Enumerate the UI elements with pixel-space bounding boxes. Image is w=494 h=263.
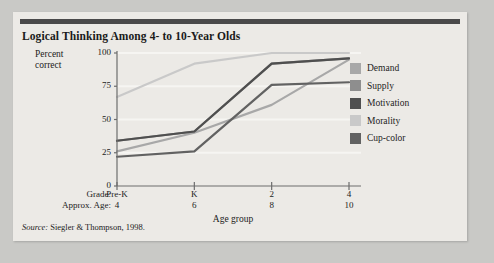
x-axis-grade-label: K: [171, 189, 217, 199]
chart-series-line: [117, 58, 349, 140]
y-axis-label-line2: correct: [35, 60, 61, 70]
legend-swatch-icon: [350, 63, 361, 74]
source-note: Source: Siegler & Thompson, 1998.: [22, 222, 145, 232]
y-axis-tick-label: 75: [85, 80, 111, 90]
source-label: Source:: [22, 222, 48, 232]
legend-item[interactable]: Motivation: [350, 95, 462, 111]
legend-item-label: Morality: [367, 116, 400, 126]
legend-item[interactable]: Supply: [350, 78, 462, 94]
figure-card: Logical Thinking Among 4- to 10-Year Old…: [13, 12, 467, 241]
x-axis-age-label: 8: [249, 200, 295, 210]
x-axis-grade-label: 4: [326, 189, 372, 199]
x-axis-age-label: 6: [171, 200, 217, 210]
legend-swatch-icon: [350, 98, 361, 109]
x-axis-age-label: 10: [326, 200, 372, 210]
y-axis-tick-label: 100: [85, 47, 111, 57]
y-axis-tick-label: 25: [85, 147, 111, 157]
legend-item[interactable]: Demand: [350, 60, 462, 76]
legend-item[interactable]: Cup-color: [350, 130, 462, 146]
legend-swatch-icon: [350, 80, 361, 91]
y-axis-label-line1: Percent: [35, 49, 64, 59]
age-row-caption: Approx. Age:: [25, 200, 111, 210]
chart-series-line: [117, 58, 349, 140]
legend-item-label: Demand: [367, 63, 399, 73]
grade-row-caption: Grade:: [35, 189, 111, 199]
legend-item[interactable]: Morality: [350, 113, 462, 129]
chart-series-line: [117, 53, 349, 97]
legend-item-label: Cup-color: [367, 133, 406, 143]
x-axis-grade-label: 2: [249, 189, 295, 199]
chart-legend: DemandSupplyMotivationMoralityCup-color: [350, 60, 462, 148]
legend-swatch-icon: [350, 133, 361, 144]
source-text: Siegler & Thompson, 1998.: [48, 222, 145, 232]
x-axis-title: Age group: [113, 214, 353, 224]
legend-swatch-icon: [350, 115, 361, 126]
legend-item-label: Supply: [367, 81, 394, 91]
y-axis-tick-label: 50: [85, 114, 111, 124]
legend-item-label: Motivation: [367, 98, 409, 108]
